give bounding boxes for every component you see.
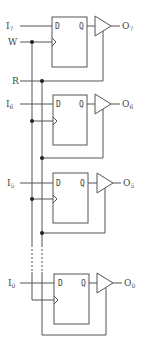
output-label: O6 (122, 99, 133, 110)
stage-5: D Q I5 O5 (7, 173, 134, 235)
junction-dot (30, 119, 34, 123)
q-pin-label: Q (80, 179, 85, 188)
write-label: W (8, 37, 18, 47)
stage-6: D Q I6 O6 (6, 94, 133, 160)
q-pin-label: Q (79, 100, 84, 109)
junction-dot (40, 231, 44, 235)
stage-7: D Q I7 O7 (6, 16, 133, 81)
junction-dot (40, 156, 44, 160)
d-pin-label: D (56, 100, 61, 109)
junction-dot (40, 79, 44, 83)
input-label: I7 (6, 21, 14, 32)
read-label: R (12, 76, 19, 86)
d-pin-label: D (58, 279, 63, 288)
stage-0: D Q I0 O0 (8, 273, 135, 335)
output-label: O0 (124, 278, 135, 289)
q-pin-label: Q (81, 279, 86, 288)
q-pin-label: Q (79, 22, 84, 31)
tristate-buffer-icon (97, 273, 113, 293)
output-label: O5 (123, 178, 134, 189)
d-pin-label: D (55, 22, 60, 31)
register-diagram: D Q I7 O7 W R D Q I6 O6 (0, 0, 144, 348)
output-label: O7 (122, 21, 133, 32)
d-pin-label: D (56, 179, 61, 188)
input-label: I0 (8, 278, 16, 289)
input-label: I6 (6, 99, 14, 110)
junction-dot (30, 197, 34, 201)
junction-dot (30, 40, 34, 44)
input-label: I5 (7, 178, 15, 189)
